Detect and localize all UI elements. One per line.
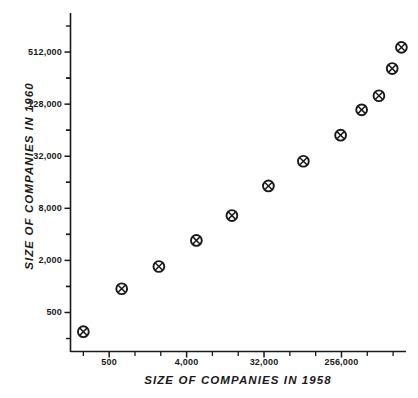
x-tick-label: 256,000	[325, 357, 359, 367]
plot-canvas	[0, 0, 418, 398]
data-point-marker	[153, 261, 164, 272]
data-point-marker	[78, 326, 89, 337]
y-tick-label: 2,000	[38, 255, 62, 265]
data-point-marker	[356, 104, 367, 115]
data-point-marker	[387, 63, 398, 74]
y-tick-label: 32,000	[33, 151, 62, 161]
data-point-marker	[396, 42, 407, 53]
data-point-marker	[116, 283, 127, 294]
plot-background	[0, 0, 418, 398]
data-point-marker	[263, 181, 274, 192]
data-point-marker	[191, 235, 202, 246]
y-axis-title: SIZE OF COMPANIES IN 1960	[23, 51, 35, 301]
y-tick-label: 500	[46, 307, 62, 317]
x-tick-label: 4,000	[175, 357, 199, 367]
scatter-plot-figure: 5002,0008,00032,000128,000512,000 5004,0…	[0, 0, 418, 398]
data-point-marker	[227, 210, 238, 221]
data-point-marker	[335, 130, 346, 141]
x-tick-label: 500	[101, 357, 117, 367]
data-point-marker	[298, 156, 309, 167]
x-axis-title: SIZE OF COMPANIES IN 1958	[70, 374, 406, 386]
x-tick-label: 32,000	[250, 357, 279, 367]
y-tick-label: 8,000	[38, 203, 62, 213]
data-point-marker	[374, 90, 385, 101]
